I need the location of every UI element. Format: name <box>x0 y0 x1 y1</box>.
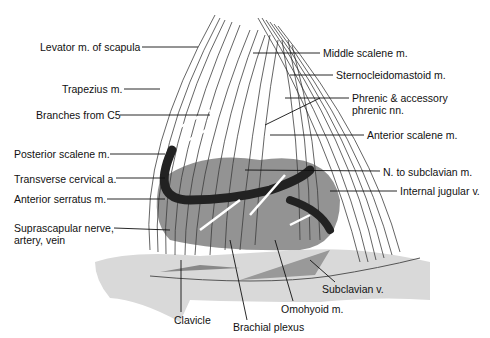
label-transverse-cervical: Transverse cervical a. <box>14 173 116 185</box>
label-brachial-plexus: Brachial plexus <box>233 321 304 333</box>
label-phrenic-1: Phrenic & accessory <box>352 92 448 104</box>
label-anterior-scalene: Anterior scalene m. <box>367 129 457 141</box>
label-suprascapular-1: Suprascapular nerve, <box>14 222 114 234</box>
label-phrenic-2: phrenic nn. <box>352 104 404 116</box>
label-subclavian-v: Subclavian v. <box>322 283 384 295</box>
label-sternocleidomastoid: Sternocleidomastoid m. <box>336 69 446 81</box>
label-suprascapular-2: artery, vein <box>14 234 65 246</box>
label-middle-scalene: Middle scalene m. <box>323 47 408 59</box>
label-levator-scapula: Levator m. of scapula <box>40 41 140 53</box>
label-omohyoid: Omohyoid m. <box>281 303 343 315</box>
label-internal-jugular: Internal jugular v. <box>400 185 480 197</box>
label-anterior-serratus: Anterior serratus m. <box>14 193 106 205</box>
label-trapezius: Trapezius m. <box>62 83 122 95</box>
label-posterior-scalene: Posterior scalene m. <box>14 148 110 160</box>
label-branches-c5: Branches from C5 <box>36 109 121 121</box>
anatomy-illustration: Levator m. of scapula Trapezius m. Branc… <box>0 0 490 338</box>
label-clavicle: Clavicle <box>174 314 211 326</box>
label-n-subclavian: N. to subclavian m. <box>383 166 472 178</box>
